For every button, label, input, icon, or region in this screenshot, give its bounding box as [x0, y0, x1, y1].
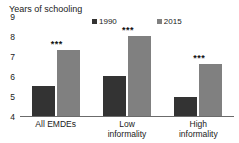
- y-axis-tick-label: 6: [10, 73, 15, 82]
- bar-1990[interactable]: [174, 97, 197, 116]
- y-axis-tick-label: 5: [10, 93, 15, 102]
- significance-marker: ***: [193, 54, 205, 62]
- x-axis-category-labels: All EMDEsLow informalityHigh informality: [20, 119, 234, 139]
- x-axis-category-label: Low informality: [91, 119, 162, 139]
- plot-area: *********: [20, 17, 234, 117]
- bar-1990[interactable]: [32, 86, 55, 116]
- y-axis-tick-labels: 456789: [0, 17, 18, 117]
- significance-marker: ***: [122, 26, 134, 34]
- y-axis-tick-label: 7: [10, 53, 15, 62]
- chart-axis-title: Years of schooling: [9, 4, 82, 14]
- y-axis-tick-label: 9: [10, 13, 15, 22]
- x-axis-category-label: High informality: [163, 119, 234, 139]
- bar-group: ***: [20, 17, 91, 117]
- bar-2015[interactable]: [199, 64, 222, 116]
- bar-2015[interactable]: [128, 36, 151, 116]
- bar-groups: *********: [20, 17, 234, 117]
- bar-group: ***: [163, 17, 234, 117]
- x-axis-category-label: All EMDEs: [20, 119, 91, 139]
- significance-marker: ***: [51, 40, 63, 48]
- bar-2015[interactable]: [57, 50, 80, 116]
- y-axis-tick-label: 8: [10, 33, 15, 42]
- y-axis-tick-label: 4: [10, 113, 15, 122]
- chart-container: Years of schooling 1990 2015 456789 ****…: [0, 0, 239, 143]
- bar-1990[interactable]: [103, 76, 126, 116]
- bar-group: ***: [91, 17, 162, 117]
